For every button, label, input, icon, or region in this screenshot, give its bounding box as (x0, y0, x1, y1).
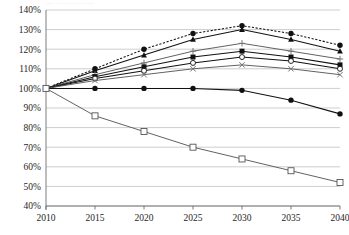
y-axis-tick-label: 140% (19, 5, 41, 15)
data-point-marker-filled-circle (141, 47, 146, 52)
data-point-marker-filled-circle (92, 86, 97, 91)
x-axis-tick-label: 2030 (233, 213, 252, 223)
y-axis-tick-label: 50% (24, 182, 42, 192)
x-axis-tick-labels: 2010201520202025203020352040 (37, 213, 349, 223)
line-chart-plot: 140%130%120%110%100%90%80%70%60%50%40% 2… (0, 0, 349, 235)
series-line (46, 88, 340, 113)
x-axis-tick-label: 2040 (331, 213, 349, 223)
data-point-marker-filled-circle (239, 88, 244, 93)
x-axis-tick-label: 2035 (282, 213, 301, 223)
data-point-marker-filled-circle (288, 31, 293, 36)
data-point-marker-open-square (43, 85, 49, 91)
data-point-marker-open-square (288, 168, 294, 174)
data-point-marker-filled-circle (337, 111, 342, 116)
data-point-marker-open-circle (240, 55, 245, 60)
y-axis-tick-label: 90% (24, 103, 42, 113)
y-axis-tick-label: 60% (24, 162, 42, 172)
y-axis-tick-label: 100% (19, 84, 41, 94)
x-axis-tick-label: 2025 (184, 213, 203, 223)
data-point-marker-filled-square (191, 55, 196, 60)
data-point-marker-filled-circle (288, 97, 293, 102)
y-axis-tick-label: 70% (24, 143, 42, 153)
data-point-marker-filled-circle (337, 43, 342, 48)
data-point-marker-filled-circle (141, 86, 146, 91)
data-series-group (43, 23, 343, 186)
data-point-marker-open-square (190, 144, 196, 150)
data-point-marker-open-square (92, 113, 98, 119)
series-line (46, 88, 340, 182)
y-axis-tick-label: 110% (19, 64, 41, 74)
data-point-marker-open-square (239, 156, 245, 162)
y-axis-tick-label: 130% (19, 25, 41, 35)
data-point-marker-open-circle (338, 66, 343, 71)
x-axis-tick-label: 2010 (37, 213, 56, 223)
data-point-marker-open-circle (191, 60, 196, 65)
series-series-8 (43, 85, 343, 185)
chart-container: —— —— —— —— —— 140%130%120%110%100%90%80… (0, 0, 349, 235)
data-point-marker-filled-circle (190, 31, 195, 36)
data-point-marker-open-square (337, 179, 343, 185)
y-axis-tick-label: 120% (19, 45, 41, 55)
y-axis-tick-label: 80% (24, 123, 42, 133)
data-point-marker-open-square (141, 129, 147, 135)
y-axis-tick-labels: 140%130%120%110%100%90%80%70%60%50%40% (19, 5, 41, 211)
data-point-marker-filled-circle (190, 86, 195, 91)
data-point-marker-filled-square (240, 49, 245, 54)
data-point-marker-open-circle (289, 58, 294, 63)
x-axis-tick-label: 2020 (135, 213, 154, 223)
y-axis-tick-label: 40% (24, 201, 42, 211)
x-axis-tick-label: 2015 (86, 213, 105, 223)
